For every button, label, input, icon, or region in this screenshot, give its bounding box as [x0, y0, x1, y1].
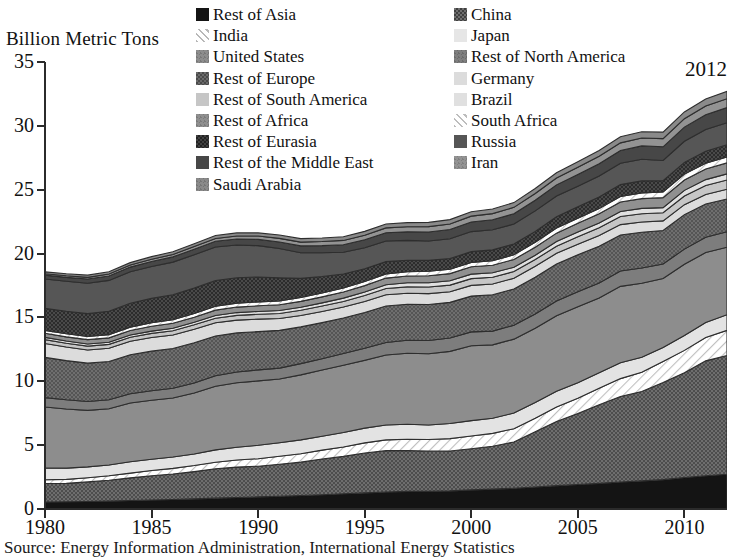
y-tick-label: 30: [0, 115, 34, 135]
legend-item: Rest of Asia: [196, 4, 454, 25]
x-tick-label: 1990: [228, 516, 288, 538]
legend-label: India: [213, 26, 248, 45]
legend-item: China: [454, 4, 712, 25]
y-tick: [37, 61, 45, 63]
legend-swatch-icon: [454, 8, 467, 21]
x-tick-label: 2000: [441, 516, 501, 538]
x-tick-label: 1980: [15, 516, 75, 538]
y-tick: [37, 380, 45, 382]
y-tick-label: 20: [0, 243, 34, 263]
legend-label: Rest of Asia: [213, 5, 296, 24]
x-tick-label: 2010: [654, 516, 714, 538]
y-tick-label: 35: [0, 51, 34, 71]
y-tick: [37, 125, 45, 127]
x-tick-label: 2005: [548, 516, 608, 538]
y-tick: [37, 189, 45, 191]
x-tick-label: 1985: [122, 516, 182, 538]
y-tick-label: 0: [0, 498, 34, 518]
legend-item: Japan: [454, 25, 712, 46]
x-tick-label: 1995: [335, 516, 395, 538]
y-axis-title: Billion Metric Tons: [6, 28, 159, 50]
legend-swatch-icon: [454, 29, 467, 42]
legend-item: India: [196, 25, 454, 46]
y-tick-label: 10: [0, 370, 34, 390]
legend-swatch-icon: [196, 8, 209, 21]
y-tick: [37, 316, 45, 318]
y-tick: [37, 444, 45, 446]
area-layers: [45, 91, 727, 509]
plot-area: [45, 62, 727, 509]
stacked-area-svg: [45, 62, 727, 509]
y-axis-line: [44, 62, 46, 510]
legend-label: China: [471, 5, 512, 24]
y-tick-label: 15: [0, 306, 34, 326]
x-axis-line: [44, 508, 727, 510]
source-note: Source: Energy Information Administratio…: [4, 538, 515, 557]
legend-label: Japan: [471, 26, 510, 45]
y-tick: [37, 253, 45, 255]
y-tick-label: 25: [0, 179, 34, 199]
legend-swatch-icon: [196, 29, 209, 42]
y-tick-label: 5: [0, 434, 34, 454]
